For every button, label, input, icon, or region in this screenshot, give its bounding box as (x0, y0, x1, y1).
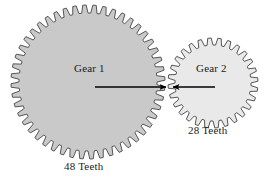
gear-2-shape (168, 38, 258, 128)
gear-2-label: Gear 2 (196, 62, 227, 74)
gear-2-teeth-label: 28 Teeth (188, 124, 227, 136)
gear-diagram: Gear 1 Gear 2 48 Teeth 28 Teeth (0, 0, 270, 182)
gear-1-shape (11, 5, 165, 159)
gear-1-label: Gear 1 (74, 62, 105, 74)
gear-1-teeth-label: 48 Teeth (64, 160, 103, 172)
gear-diagram-canvas (0, 0, 270, 182)
